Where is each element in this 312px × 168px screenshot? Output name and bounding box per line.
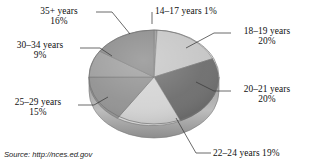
pie-label-30-34: 30–34 years 9% <box>2 40 78 61</box>
pie-label-22-24-text: 22–24 years 19% <box>213 148 280 158</box>
pie-label-20-21-name: 20–21 years <box>244 84 291 94</box>
pie-label-30-34-percent: 9% <box>2 50 78 60</box>
pie-label-30-34-name: 30–34 years <box>17 40 64 50</box>
pie-label-18-19-percent: 20% <box>233 36 301 46</box>
pie-label-14-17-text: 14–17 years 1% <box>155 6 217 16</box>
pie-label-35-plus-name: 35+ years <box>40 6 78 16</box>
pie-label-25-29-name: 25–29 years <box>15 97 62 107</box>
pie-chart-figure: 35+ years 16% 30–34 years 9% 25–29 years… <box>0 0 312 168</box>
pie-label-14-17: 14–17 years 1% <box>155 6 217 16</box>
pie-label-20-21-percent: 20% <box>233 94 301 104</box>
pie-label-35-plus: 35+ years 16% <box>24 6 94 27</box>
pie-label-25-29-percent: 15% <box>0 107 76 117</box>
leader-line-35-plus <box>96 12 130 34</box>
source-note: Source: http://nces.ed.gov <box>4 150 92 159</box>
pie-label-18-19: 18–19 years 20% <box>233 26 301 47</box>
pie-label-35-plus-percent: 16% <box>24 16 94 26</box>
pie-label-22-24: 22–24 years 19% <box>213 148 280 158</box>
pie-label-20-21: 20–21 years 20% <box>233 84 301 105</box>
pie-label-25-29: 25–29 years 15% <box>0 97 76 118</box>
pie-label-18-19-name: 18–19 years <box>244 26 291 36</box>
